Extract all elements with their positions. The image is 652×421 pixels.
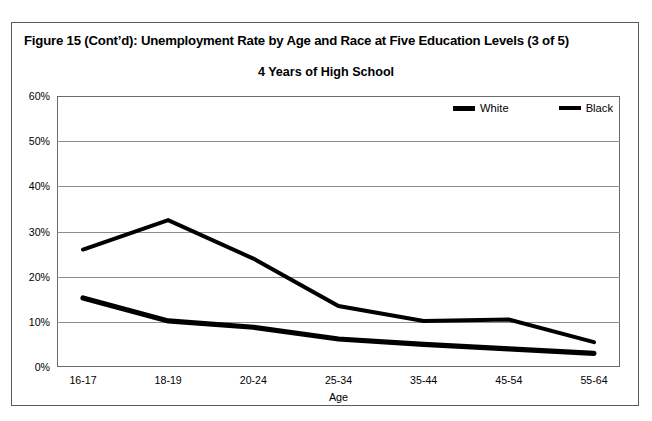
y-tick-label: 30% <box>29 226 50 238</box>
y-tick-label: 60% <box>29 90 50 102</box>
x-tick-label: 20-24 <box>240 374 267 386</box>
legend-swatch-black <box>559 106 581 110</box>
y-tick-label: 10% <box>29 316 50 328</box>
x-tick-label: 35-44 <box>410 374 437 386</box>
x-tick-label: 18-19 <box>155 374 182 386</box>
x-axis-title: Age <box>57 391 620 403</box>
figure-title: Figure 15 (Cont’d): Unemployment Rate by… <box>24 33 624 48</box>
y-tick-label: 20% <box>29 271 50 283</box>
y-tick-label: 0% <box>35 361 50 373</box>
figure-frame: Figure 15 (Cont’d): Unemployment Rate by… <box>11 22 639 406</box>
series-lines <box>57 96 620 367</box>
legend-label-white: White <box>480 103 509 114</box>
chart-subtitle: 4 Years of High School <box>12 65 640 79</box>
legend-label-black: Black <box>586 103 613 114</box>
x-tick-label: 25-34 <box>325 374 352 386</box>
x-tick-label: 55-64 <box>580 374 607 386</box>
legend-swatch-white <box>453 106 475 111</box>
plot-wrap: 0%10%20%30%40%50%60% 16-1718-1920-2425-3… <box>57 96 620 367</box>
x-tick-label: 16-17 <box>69 374 96 386</box>
y-tick-label: 40% <box>29 180 50 192</box>
legend-entry-black: Black <box>559 103 613 114</box>
x-tick-label: 45-54 <box>495 374 522 386</box>
y-tick-label: 50% <box>29 135 50 147</box>
legend-entry-white: White <box>453 103 509 114</box>
chart-legend: White Black <box>453 100 613 117</box>
series-line-black <box>83 220 594 342</box>
